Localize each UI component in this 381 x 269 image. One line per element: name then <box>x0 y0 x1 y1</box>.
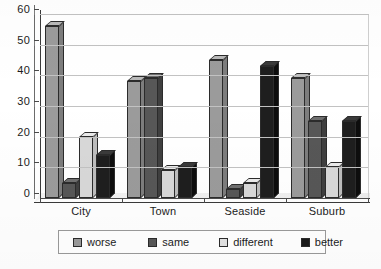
legend-item-better[interactable]: better <box>301 236 343 248</box>
x-axis-tick <box>286 198 287 203</box>
y-axis-tick <box>34 101 39 102</box>
bar-face <box>144 78 158 198</box>
bar-same-seaside[interactable] <box>226 189 240 198</box>
gridline <box>40 45 368 46</box>
legend-swatch-same-icon <box>148 238 157 247</box>
bar-face <box>291 78 305 198</box>
bar-side <box>59 21 64 198</box>
y-axis-tick <box>34 70 39 71</box>
y-axis-tick <box>34 40 39 41</box>
bar-worse-city[interactable] <box>45 26 59 198</box>
chart-legend: worse same different better <box>58 230 326 254</box>
bar-worse-town[interactable] <box>127 81 141 198</box>
legend-swatch-better-icon <box>301 238 310 247</box>
gridline <box>40 167 368 168</box>
bar-face <box>342 121 356 198</box>
x-axis-back-line <box>34 202 370 203</box>
legend-label-different: different <box>233 236 273 248</box>
y-axis-labels: 0102030405060 <box>0 0 30 269</box>
gridline <box>40 75 368 76</box>
bar-better-city[interactable] <box>96 155 110 198</box>
legend-label-better: better <box>315 236 343 248</box>
y-axis-tick-label: 40 <box>17 65 30 76</box>
bar-better-town[interactable] <box>178 167 192 198</box>
bar-side <box>110 150 115 198</box>
y-axis-tick-label: 60 <box>17 4 30 15</box>
bar-same-town[interactable] <box>144 78 158 198</box>
bar-same-city[interactable] <box>62 183 76 198</box>
bar-side <box>223 55 228 198</box>
x-axis-tick <box>204 198 205 203</box>
x-axis-tick-label: City <box>40 205 122 217</box>
x-axis-tick <box>368 198 369 203</box>
bar-face <box>243 183 257 198</box>
y-axis-tick-label: 20 <box>17 127 30 138</box>
y-axis-tick <box>34 132 39 133</box>
bar-different-town[interactable] <box>161 170 175 198</box>
y-axis-tick <box>34 162 39 163</box>
x-axis-tick <box>40 198 41 203</box>
bar-face <box>226 189 240 198</box>
bar-better-suburb[interactable] <box>342 121 356 198</box>
legend-item-different[interactable]: different <box>219 236 273 248</box>
plot-area <box>40 14 368 198</box>
x-axis-tick-label: Town <box>122 205 204 217</box>
legend-label-worse: worse <box>87 236 116 248</box>
bar-face <box>161 170 175 198</box>
gridline <box>40 137 368 138</box>
bar-face <box>325 167 339 198</box>
gridline <box>40 106 368 107</box>
y-axis-tick <box>34 9 39 10</box>
legend-swatch-worse-icon <box>73 238 82 247</box>
legend-swatch-different-icon <box>219 238 228 247</box>
bar-face <box>209 60 223 198</box>
bar-same-suburb[interactable] <box>308 121 322 198</box>
y-axis-tick <box>34 193 39 194</box>
y-axis-tick-label: 30 <box>17 96 30 107</box>
x-axis-tick-label: Suburb <box>286 205 368 217</box>
bar-face <box>127 81 141 198</box>
bar-chart: 0102030405060 CityTownSeasideSuburb wors… <box>0 0 381 269</box>
y-axis-tick-label: 0 <box>24 188 30 199</box>
y-axis-tick-label: 10 <box>17 157 30 168</box>
legend-label-same: same <box>162 236 189 248</box>
bar-face <box>45 26 59 198</box>
legend-item-worse[interactable]: worse <box>73 236 116 248</box>
bar-worse-seaside[interactable] <box>209 60 223 198</box>
gridline <box>40 14 368 15</box>
bar-face <box>260 66 274 198</box>
x-axis-tick <box>122 198 123 203</box>
bar-face <box>308 121 322 198</box>
bar-different-suburb[interactable] <box>325 167 339 198</box>
bar-side <box>356 116 361 198</box>
bar-face <box>178 167 192 198</box>
bar-side <box>274 61 279 198</box>
y-axis-tick-label: 50 <box>17 35 30 46</box>
bar-face <box>96 155 110 198</box>
bar-face <box>62 183 76 198</box>
x-axis-tick-label: Seaside <box>204 205 286 217</box>
bar-better-seaside[interactable] <box>260 66 274 198</box>
bar-different-seaside[interactable] <box>243 183 257 198</box>
legend-item-same[interactable]: same <box>148 236 189 248</box>
bar-worse-suburb[interactable] <box>291 78 305 198</box>
